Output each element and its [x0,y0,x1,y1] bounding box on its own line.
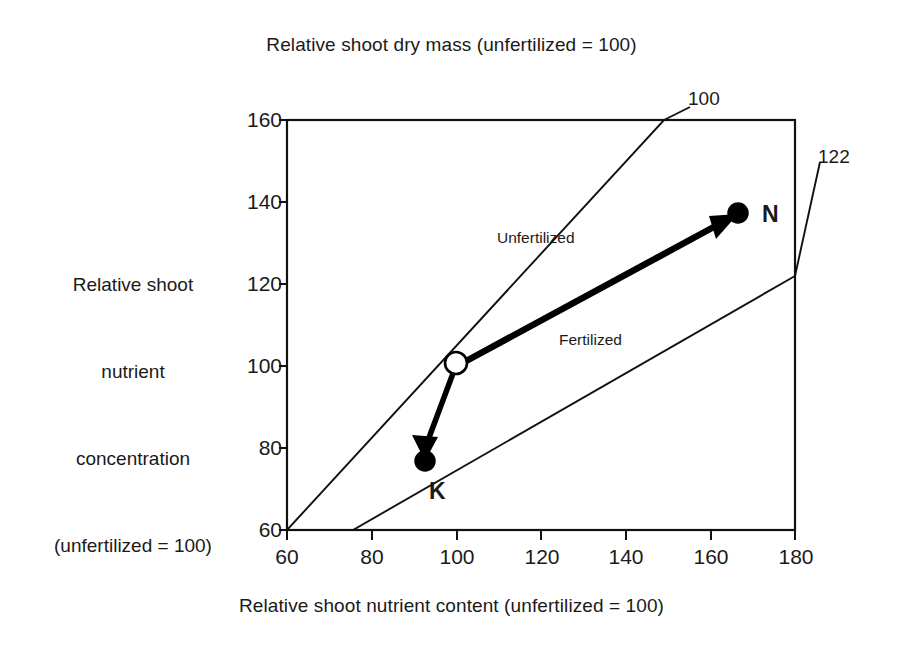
fertilized-isoline-extension [795,162,820,276]
x-axis-ticks [287,530,795,540]
point-n-marker[interactable] [728,203,748,223]
point-k-marker[interactable] [415,451,435,471]
chart-figure: Relative shoot dry mass (unfertilized = … [0,0,903,655]
y-axis-ticks [279,120,287,530]
fertilized-isoline [353,276,795,530]
arrow-to-n [457,214,738,366]
unfertilized-isoline [287,120,664,530]
unfertilized-isoline-extension [664,107,690,120]
plot-canvas [0,0,903,655]
plot-frame [287,120,795,530]
unfertilized-reference-marker[interactable] [445,352,467,374]
arrow-to-k [412,368,455,461]
